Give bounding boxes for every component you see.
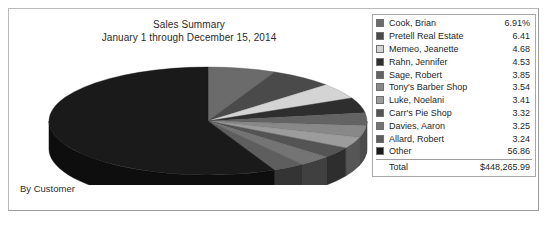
legend-item-value: 3.85 (506, 70, 532, 80)
legend-item-value: 3.24 (506, 134, 532, 144)
report-frame: Sales Summary January 1 through December… (8, 8, 539, 211)
legend-color-swatch (376, 135, 384, 143)
legend-item-value: 3.25 (506, 121, 532, 131)
group-by-label: By Customer (20, 183, 75, 194)
legend-item-label: Pretell Real Estate (389, 31, 506, 41)
legend-item: Sage, Robert3.85 (376, 68, 532, 81)
page-title: Sales Summary (9, 18, 369, 31)
legend-color-swatch (376, 71, 384, 79)
legend-item-label: Luke, Noelani (389, 95, 506, 105)
report-date-range: January 1 through December 15, 2014 (9, 31, 369, 44)
legend-rows: Cook, Brian6.91%Pretell Real Estate6.41M… (376, 17, 532, 158)
legend-item-label: Memeo, Jeanette (389, 44, 506, 54)
legend-item: Cook, Brian6.91% (376, 17, 532, 30)
legend-total-row: Total $448,265.99 (376, 159, 532, 174)
legend-item-value: 4.68 (506, 44, 532, 54)
pie-chart-top-slices (49, 67, 367, 175)
legend-item-label: Sage, Robert (389, 70, 506, 80)
legend-item: Allard, Robert3.24 (376, 132, 532, 145)
legend-item: Davies, Aaron3.25 (376, 119, 532, 132)
pie-chart-svg (42, 55, 372, 185)
legend-item: Tony's Barber Shop3.54 (376, 81, 532, 94)
legend-item-label: Tony's Barber Shop (389, 82, 506, 92)
legend-color-swatch (376, 45, 384, 53)
legend-item: Carr's Pie Shop3.32 (376, 107, 532, 120)
report-title-block: Sales Summary January 1 through December… (9, 18, 369, 44)
legend-item-label: Carr's Pie Shop (389, 108, 506, 118)
legend-item-value: 6.41 (506, 31, 532, 41)
legend-item: Pretell Real Estate6.41 (376, 30, 532, 43)
legend-item-value: 6.91% (498, 18, 532, 28)
legend-item: Memeo, Jeanette4.68 (376, 43, 532, 56)
legend-item-label: Cook, Brian (389, 18, 498, 28)
legend-item-label: Allard, Robert (389, 134, 506, 144)
legend-color-swatch (376, 96, 384, 104)
legend-item-value: 4.53 (506, 57, 532, 67)
legend-item-label: Rahn, Jennifer (389, 57, 506, 67)
legend-item-value: 3.41 (506, 95, 532, 105)
legend-total-value: $448,265.99 (474, 162, 532, 172)
legend-color-swatch (376, 109, 384, 117)
legend-item: Rahn, Jennifer4.53 (376, 55, 532, 68)
legend-item: Luke, Noelani3.41 (376, 94, 532, 107)
legend-item-label: Davies, Aaron (389, 121, 506, 131)
legend-color-swatch (376, 19, 384, 27)
legend-color-swatch (376, 83, 384, 91)
legend-item-value: 3.54 (506, 82, 532, 92)
legend-item-value: 3.32 (506, 108, 532, 118)
pie-chart (42, 55, 372, 185)
legend: Cook, Brian6.91%Pretell Real Estate6.41M… (372, 14, 536, 177)
legend-color-swatch (376, 122, 384, 130)
legend-item: Other56.86 (376, 145, 532, 158)
legend-item-label: Other (389, 146, 501, 156)
legend-color-swatch (376, 58, 384, 66)
legend-color-swatch (376, 147, 384, 155)
legend-item-value: 56.86 (501, 146, 532, 156)
legend-color-swatch (376, 32, 384, 40)
legend-total-label: Total (376, 162, 474, 172)
